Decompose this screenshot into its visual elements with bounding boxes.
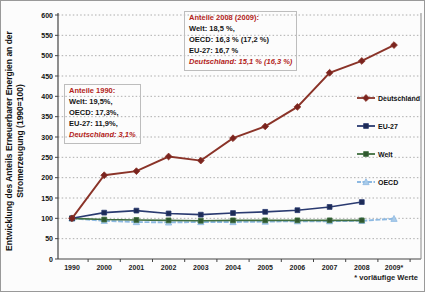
x-tick-label-2009: 2009* bbox=[385, 264, 404, 271]
y-axis-title-line2: Stromerzeugung (1990=100) bbox=[15, 1, 26, 281]
y-tick-label-200: 200 bbox=[41, 174, 53, 181]
y-tick-label-250: 250 bbox=[41, 154, 53, 161]
series-line-eu-27 bbox=[72, 202, 362, 218]
series-marker-welt-2004 bbox=[231, 218, 236, 223]
series-marker-welt-2003 bbox=[198, 218, 203, 223]
legend-marker-eu-27 bbox=[364, 124, 369, 129]
y-tick-label-600: 600 bbox=[41, 12, 53, 19]
series-marker-welt-2001 bbox=[134, 218, 139, 223]
x-tick-label-2004: 2004 bbox=[225, 264, 241, 271]
legend-label-eu-27: EU-27 bbox=[378, 123, 398, 130]
series-marker-eu-27-2002 bbox=[166, 211, 171, 216]
y-tick-label-150: 150 bbox=[41, 195, 53, 202]
x-tick-label-2000: 2000 bbox=[96, 264, 112, 271]
x-tick-label-2003: 2003 bbox=[193, 264, 209, 271]
annotation-line: Anteile 1990: bbox=[69, 86, 136, 97]
y-tick-label-300: 300 bbox=[41, 134, 53, 141]
series-marker-welt-2006 bbox=[295, 218, 300, 223]
legend-label-oecd: OECD bbox=[378, 179, 398, 186]
y-tick-label-100: 100 bbox=[41, 215, 53, 222]
series-marker-eu-27-2005 bbox=[263, 209, 268, 214]
x-tick-label-2005: 2005 bbox=[257, 264, 273, 271]
annotation-line: Deutschland: 3,1% bbox=[69, 130, 136, 141]
y-tick-label-350: 350 bbox=[41, 113, 53, 120]
legend-label-welt: Welt bbox=[378, 151, 393, 158]
y-tick-label-400: 400 bbox=[41, 93, 53, 100]
y-tick-label-50: 50 bbox=[45, 235, 53, 242]
series-marker-deutschland-2008 bbox=[358, 58, 365, 65]
y-axis-title: Entwicklung des Anteils Erneuerbarer Ene… bbox=[4, 1, 30, 281]
chart-figure: 0501001502002503003504004505005506001990… bbox=[0, 0, 425, 292]
annotation-anteile-2008-2009: Anteile 2008 (2009):Welt: 18,5 %,OECD: 1… bbox=[184, 11, 297, 71]
legend-marker-deutschland bbox=[363, 95, 370, 102]
series-marker-eu-27-2008 bbox=[359, 200, 364, 205]
series-marker-deutschland-2001 bbox=[133, 168, 140, 175]
annotation-line: Anteile 2008 (2009): bbox=[189, 13, 292, 24]
y-tick-label-500: 500 bbox=[41, 52, 53, 59]
x-tick-label-2006: 2006 bbox=[290, 264, 306, 271]
series-marker-eu-27-2000 bbox=[102, 210, 107, 215]
series-marker-eu-27-2001 bbox=[134, 208, 139, 213]
series-marker-welt-2005 bbox=[263, 218, 268, 223]
annotation-anteile-1990: Anteile 1990:Welt: 19,5%,OECD: 17,3%,EU-… bbox=[64, 84, 141, 144]
x-tick-label-2008: 2008 bbox=[354, 264, 370, 271]
annotation-line: EU-27: 11,9%, bbox=[69, 119, 136, 130]
y-tick-label-550: 550 bbox=[41, 32, 53, 39]
legend-label-deutschland: Deutschland bbox=[378, 95, 420, 102]
series-marker-eu-27-2007 bbox=[327, 205, 332, 210]
annotation-line: Welt: 19,5%, bbox=[69, 97, 136, 108]
series-marker-deutschland-2009* bbox=[391, 42, 398, 49]
series-marker-welt-2000 bbox=[102, 217, 107, 222]
series-marker-deutschland-2002 bbox=[165, 153, 172, 160]
x-tick-label-1990: 1990 bbox=[64, 264, 80, 271]
x-tick-label-2001: 2001 bbox=[129, 264, 145, 271]
series-marker-eu-27-2003 bbox=[198, 212, 203, 217]
annotation-line: OECD: 17,3%, bbox=[69, 108, 136, 119]
footnote-vorlaeufige-werte: * vorläufige Werte bbox=[354, 273, 418, 282]
series-marker-welt-2007 bbox=[327, 218, 332, 223]
series-marker-eu-27-2006 bbox=[295, 208, 300, 213]
series-marker-welt-2002 bbox=[166, 218, 171, 223]
x-tick-label-2007: 2007 bbox=[322, 264, 338, 271]
annotation-line: OECD: 16,3 % (17,2 %) bbox=[189, 35, 292, 46]
x-tick-label-2002: 2002 bbox=[161, 264, 177, 271]
legend-marker-welt bbox=[364, 152, 369, 157]
series-marker-eu-27-2004 bbox=[231, 211, 236, 216]
annotation-line: EU-27: 16,7 % bbox=[189, 46, 292, 57]
y-tick-label-0: 0 bbox=[49, 256, 53, 263]
annotation-line: Welt: 18,5 %, bbox=[189, 24, 292, 35]
series-marker-welt-2008 bbox=[359, 218, 364, 223]
y-tick-label-450: 450 bbox=[41, 73, 53, 80]
annotation-line: Deutschland: 15,1 % (16,3 %) bbox=[189, 57, 292, 68]
y-axis-title-line1: Entwicklung des Anteils Erneuerbarer Ene… bbox=[4, 1, 15, 281]
